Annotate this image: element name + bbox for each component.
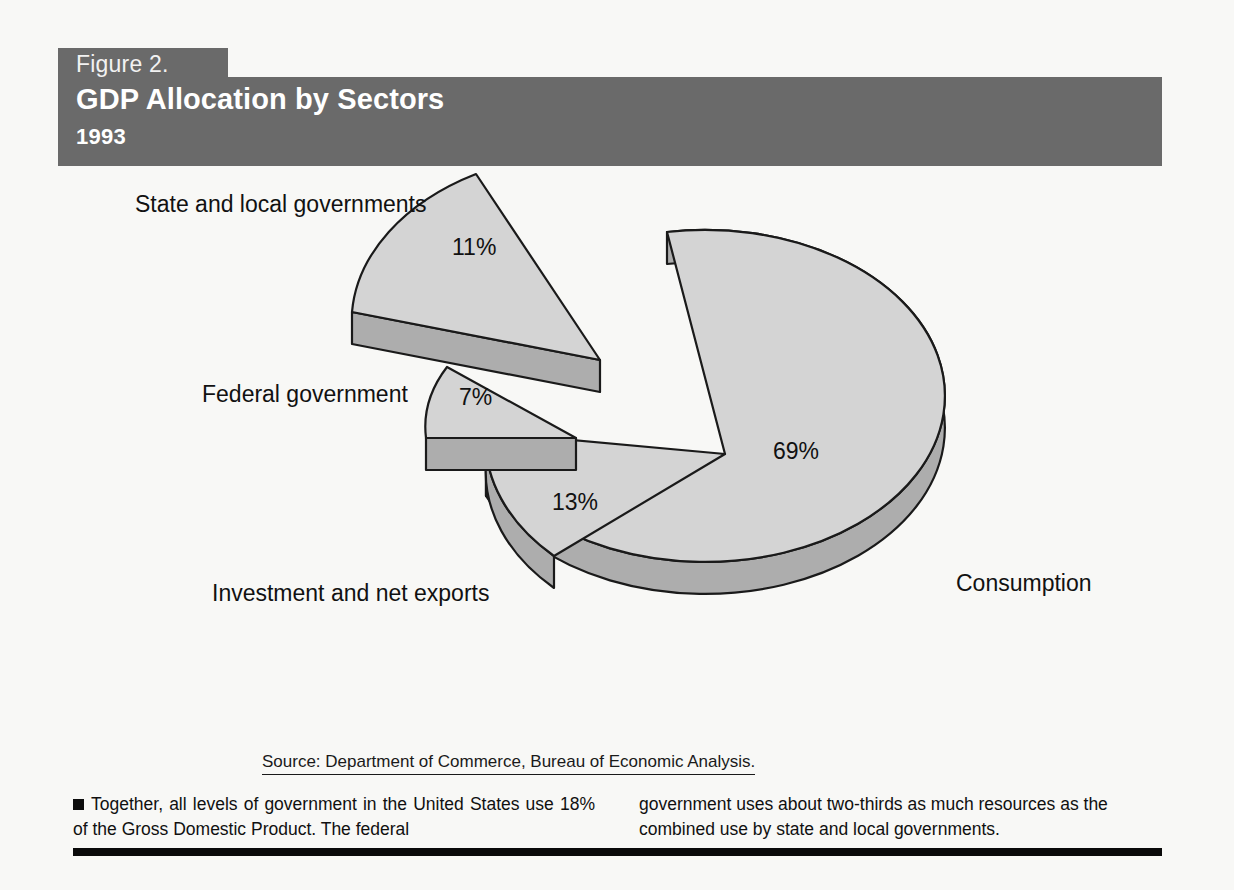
slice-value-federal: 7% (459, 384, 492, 410)
slice-federal-side (426, 438, 576, 470)
slice-label-state-local: State and local governments (135, 191, 427, 217)
slice-label-federal: Federal government (202, 381, 408, 407)
figure-page: Figure 2. GDP Allocation by Sectors 1993 (0, 0, 1234, 890)
caption: Together, all levels of government in th… (73, 792, 1162, 842)
pie-chart: 11% 7% 13% 69% State and local governmen… (0, 166, 1234, 736)
slice-value-consumption: 69% (773, 438, 819, 464)
figure-year: 1993 (76, 124, 126, 150)
slice-value-state-local: 11% (452, 234, 496, 260)
source-note: Source: Department of Commerce, Bureau o… (262, 752, 755, 775)
bottom-rule (73, 848, 1162, 856)
caption-column-left: Together, all levels of government in th… (73, 792, 595, 842)
caption-column-right: government uses about two-thirds as much… (639, 792, 1161, 842)
pie-chart-svg (0, 166, 1234, 736)
slice-value-investment: 13% (552, 489, 598, 515)
slice-label-consumption: Consumption (956, 570, 1092, 596)
page-title: GDP Allocation by Sectors (76, 82, 444, 116)
bullet-square-icon (73, 799, 84, 810)
caption-text-left: Together, all levels of government in th… (73, 794, 595, 839)
slice-label-investment: Investment and net exports (212, 580, 489, 606)
figure-number-label: Figure 2. (76, 50, 169, 78)
